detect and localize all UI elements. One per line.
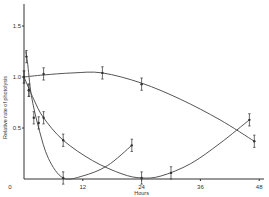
point-marker bbox=[131, 144, 133, 146]
point-marker bbox=[140, 83, 142, 85]
data-point bbox=[62, 172, 64, 184]
y-tick-label: 1.5 bbox=[13, 23, 22, 29]
data-point bbox=[131, 139, 133, 151]
point-marker bbox=[42, 117, 44, 119]
point-marker bbox=[38, 122, 40, 124]
data-point bbox=[38, 117, 40, 129]
point-marker bbox=[62, 177, 64, 179]
chart-points bbox=[23, 50, 256, 184]
point-marker bbox=[170, 172, 172, 174]
x-axis-label: Hours bbox=[134, 190, 149, 196]
point-marker bbox=[28, 89, 30, 91]
point-marker bbox=[248, 119, 250, 121]
x-tick-label: 36 bbox=[197, 184, 204, 190]
chart-curves bbox=[24, 52, 254, 180]
x-tick-label: 48 bbox=[256, 184, 263, 190]
data-point bbox=[42, 112, 44, 124]
y-axis-label: Relative rate of photolysis bbox=[2, 76, 8, 139]
data-point bbox=[42, 68, 44, 80]
data-point bbox=[170, 167, 172, 179]
point-marker bbox=[140, 177, 142, 179]
curve-a-line bbox=[24, 72, 254, 141]
photolysis-chart: 0122436480.51.01.5HoursRelative rate of … bbox=[0, 0, 269, 197]
point-marker bbox=[23, 76, 25, 78]
y-tick-label: 1.0 bbox=[13, 74, 22, 80]
point-marker bbox=[253, 140, 255, 142]
point-marker bbox=[101, 72, 103, 74]
data-point bbox=[101, 67, 103, 79]
data-point bbox=[140, 172, 142, 184]
point-marker bbox=[62, 139, 64, 141]
point-marker bbox=[25, 55, 27, 57]
curve-c-line bbox=[24, 77, 249, 178]
data-point bbox=[23, 71, 25, 83]
chart-labels: 0122436480.51.01.5HoursRelative rate of … bbox=[2, 23, 263, 196]
data-point bbox=[140, 78, 142, 90]
x-tick-label: 0 bbox=[8, 184, 12, 190]
point-marker bbox=[33, 117, 35, 119]
data-point bbox=[62, 134, 64, 146]
point-marker bbox=[42, 73, 44, 75]
chart-axes bbox=[22, 4, 264, 181]
data-point bbox=[253, 135, 255, 147]
x-tick-label: 12 bbox=[79, 184, 86, 190]
y-tick-label: 0.5 bbox=[13, 125, 22, 131]
data-point bbox=[248, 114, 250, 126]
